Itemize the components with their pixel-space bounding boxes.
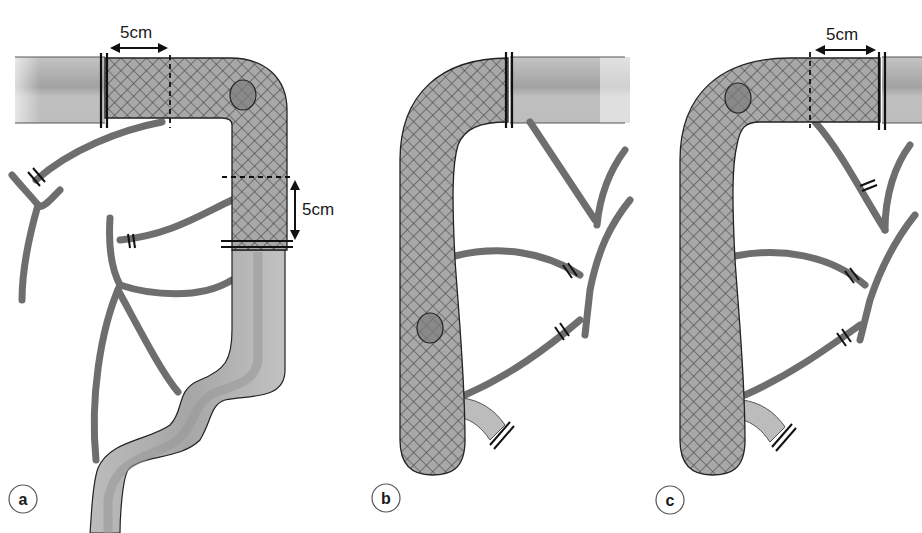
panel-c: 5cm c	[656, 25, 922, 514]
measurement-arrow-vertical	[290, 180, 300, 240]
tumour	[725, 83, 751, 113]
mesenteric-vessels	[455, 122, 630, 395]
panel-label: a	[19, 491, 28, 508]
measurement-label: 5cm	[826, 25, 858, 44]
ligature-icons	[772, 180, 877, 451]
measurement-label: 5cm	[120, 23, 152, 42]
panel-label: b	[381, 490, 391, 507]
ileal-stump	[742, 400, 785, 442]
resected-segment	[680, 58, 880, 475]
mesenteric-vessels	[735, 122, 915, 395]
transection-clamp	[506, 52, 512, 128]
colectomy-diagram: 5cm 5cm a	[0, 0, 922, 533]
measurement-arrow-horizontal	[110, 43, 168, 53]
measurement-arrow-horizontal	[815, 45, 876, 55]
panel-b: b	[372, 52, 635, 512]
distal-bowel	[882, 57, 922, 123]
tumour	[417, 313, 443, 343]
panel-label: c	[666, 492, 675, 509]
measurement-label: 5cm	[302, 200, 334, 219]
panel-a: 5cm 5cm a	[0, 23, 334, 533]
tumour	[230, 80, 256, 110]
